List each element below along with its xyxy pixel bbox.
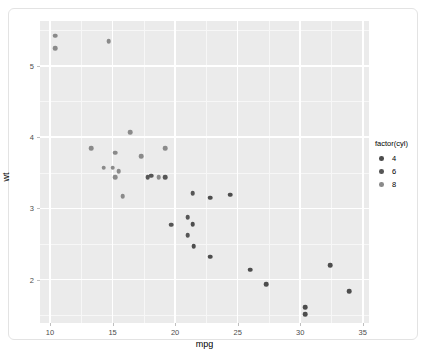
gridline-minor-y <box>40 30 369 31</box>
x-axis-label: mpg <box>40 339 369 349</box>
gridline-minor-y <box>40 315 369 316</box>
y-axis-tick-label: 3 <box>20 204 34 213</box>
legend-entries: 468 <box>375 152 419 191</box>
legend-item-label: 6 <box>392 167 396 176</box>
gridline-major-y <box>40 136 369 138</box>
data-point <box>208 254 213 259</box>
data-point <box>89 146 94 151</box>
x-axis-tick <box>300 323 301 326</box>
data-point <box>303 305 308 310</box>
data-point <box>102 165 107 170</box>
data-point <box>185 233 190 238</box>
scatter-plot-figure: 101520253035 2345 mpg wt factor(cyl) 468 <box>9 9 419 341</box>
data-point <box>53 33 58 38</box>
y-axis-tick <box>37 208 40 209</box>
legend-item-label: 4 <box>392 154 396 163</box>
data-point <box>110 165 115 170</box>
legend: factor(cyl) 468 <box>375 139 419 191</box>
data-point <box>347 289 352 294</box>
plot-panel <box>40 21 369 323</box>
data-point <box>113 150 118 155</box>
x-axis-tick <box>363 323 364 326</box>
gridline-major-y <box>40 208 369 210</box>
data-point <box>192 244 197 249</box>
legend-title: factor(cyl) <box>375 139 419 148</box>
data-point <box>248 267 253 272</box>
legend-dot-icon <box>379 169 384 174</box>
data-point <box>128 130 133 135</box>
data-point <box>208 195 213 200</box>
y-axis-tick-label: 5 <box>20 61 34 70</box>
x-axis-tick-label: 10 <box>46 328 54 337</box>
legend-key-swatch <box>375 152 388 165</box>
data-point <box>145 175 150 180</box>
legend-key-swatch <box>375 178 388 191</box>
data-point <box>157 175 162 180</box>
legend-item[interactable]: 6 <box>375 165 419 178</box>
data-point <box>190 191 195 196</box>
y-axis-tick <box>37 280 40 281</box>
x-axis-tick <box>50 323 51 326</box>
data-point <box>163 146 168 151</box>
data-point <box>264 282 269 287</box>
legend-key-swatch <box>375 165 388 178</box>
legend-item[interactable]: 4 <box>375 152 419 165</box>
data-point <box>120 194 125 199</box>
data-point <box>163 175 168 180</box>
data-point <box>185 215 190 220</box>
data-point <box>190 222 195 227</box>
legend-item[interactable]: 8 <box>375 178 419 191</box>
y-axis-label: wt <box>1 173 11 182</box>
plot-card: 101520253035 2345 mpg wt factor(cyl) 468 <box>8 8 418 340</box>
y-axis-tick <box>37 66 40 67</box>
y-axis-tick-label: 4 <box>20 133 34 142</box>
x-axis-tick <box>113 323 114 326</box>
y-axis-tick-label: 2 <box>20 275 34 284</box>
x-axis-tick <box>238 323 239 326</box>
x-axis-tick-label: 35 <box>359 328 367 337</box>
data-point <box>113 175 118 180</box>
legend-dot-icon <box>379 182 384 187</box>
gridline-minor-y <box>40 244 369 245</box>
data-point <box>107 39 112 44</box>
data-point <box>169 222 174 227</box>
legend-item-label: 8 <box>392 180 396 189</box>
gridline-major-y <box>40 279 369 281</box>
x-axis-tick-label: 15 <box>108 328 116 337</box>
gridline-minor-y <box>40 173 369 174</box>
data-point <box>303 312 308 317</box>
x-axis-tick-label: 30 <box>296 328 304 337</box>
y-axis-tick <box>37 137 40 138</box>
x-axis-tick <box>175 323 176 326</box>
data-point <box>328 263 333 268</box>
gridline-major-y <box>40 65 369 67</box>
data-point <box>53 46 58 51</box>
data-point <box>117 169 122 174</box>
legend-dot-icon <box>379 156 384 161</box>
gridline-minor-y <box>40 101 369 102</box>
data-point <box>139 154 144 159</box>
data-point <box>228 192 233 197</box>
x-axis-tick-label: 20 <box>171 328 179 337</box>
x-axis-tick-label: 25 <box>233 328 241 337</box>
